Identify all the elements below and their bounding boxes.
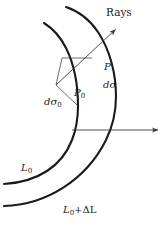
l0-delta-label-text: L: [63, 204, 70, 215]
l0-delta-l-label: L0+ΔL: [63, 205, 96, 217]
l0-delta-label-rest: +ΔL: [74, 204, 96, 215]
rays-label: Rays: [106, 7, 132, 18]
diagonal-ray-arrow: [56, 30, 116, 86]
ray-tube-edge-upper: [56, 58, 62, 85]
inner-wavefront-arc: [4, 23, 78, 184]
p0-label-subscript: 0: [81, 92, 85, 100]
l0-label-text: L: [21, 162, 28, 173]
l0-label-subscript: 0: [28, 167, 32, 175]
d-sigma0-label: dσ0: [44, 97, 62, 109]
d-sigma0-label-text: dσ: [44, 96, 57, 107]
p0-label-text: P: [74, 87, 81, 98]
l0-label: L0: [21, 163, 32, 175]
diagram-canvas: [0, 0, 166, 236]
wavefront-ray-tube-figure: Rays P dσ P0 dσ0 L0 L0+ΔL: [0, 0, 166, 236]
p0-label: P0: [74, 88, 85, 100]
p-label-text: P: [104, 61, 111, 72]
d-sigma0-label-subscript: 0: [57, 101, 61, 109]
p-label: P: [104, 62, 111, 72]
d-sigma-label-text: dσ: [103, 79, 116, 90]
d-sigma-label: dσ: [103, 80, 116, 90]
